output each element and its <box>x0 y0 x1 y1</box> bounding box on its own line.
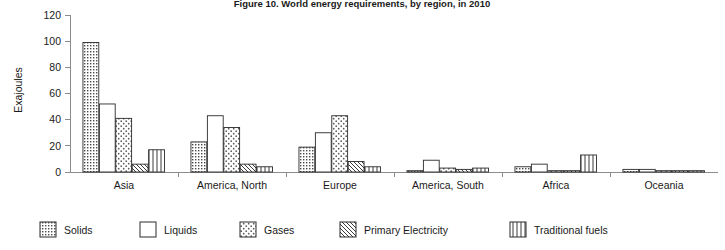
legend-swatch-solids <box>40 222 56 237</box>
y-axis-title: Exajoules <box>12 67 24 113</box>
bar-gases-africa <box>548 171 564 172</box>
bar-liquids-europe <box>315 133 331 172</box>
bar-primary-electricity-asia <box>132 164 148 172</box>
bar-traditional-fuels-oceania <box>689 171 705 172</box>
bars-layer <box>83 42 704 172</box>
y-axis-title-group: Exajoules <box>12 67 24 113</box>
bar-traditional-fuels-america-south <box>473 168 489 172</box>
bar-solids-america-north <box>191 142 207 172</box>
bar-gases-america-south <box>440 168 456 172</box>
x-axis-category-labels: AsiaAmerica, NorthEuropeAmerica, SouthAf… <box>114 179 684 191</box>
x-category-label: Europe <box>323 179 357 191</box>
legend-label-gases: Gases <box>264 224 294 236</box>
x-category-label: Asia <box>114 179 135 191</box>
bar-liquids-asia <box>99 104 115 172</box>
legend-swatch-primary-electricity <box>340 222 356 237</box>
bar-traditional-fuels-europe <box>365 167 381 172</box>
legend-swatch-gases <box>240 222 256 237</box>
bar-liquids-america-north <box>207 116 223 172</box>
bar-gases-america-north <box>224 128 240 172</box>
chart-title-group: Figure 10. World energy requirements, by… <box>234 0 490 9</box>
bar-solids-europe <box>299 147 315 172</box>
bar-gases-oceania <box>656 171 672 172</box>
bar-liquids-africa <box>531 164 547 172</box>
chart-container: Figure 10. World energy requirements, by… <box>0 0 725 250</box>
legend-swatch-liquids <box>140 222 156 237</box>
y-tick-label: 20 <box>49 140 61 152</box>
bar-solids-oceania <box>623 169 639 172</box>
y-tick-label: 100 <box>43 35 61 47</box>
x-category-label: America, South <box>412 179 484 191</box>
x-category-label: Oceania <box>644 179 683 191</box>
chart-title: Figure 10. World energy requirements, by… <box>234 0 490 9</box>
legend-label-primary-electricity: Primary Electricity <box>364 224 449 236</box>
bar-liquids-oceania <box>639 169 655 172</box>
legend-swatch-traditional-fuels <box>510 222 526 237</box>
bar-primary-electricity-europe <box>348 162 364 172</box>
chart-legend: SolidsLiquidsGasesPrimary ElectricityTra… <box>40 222 608 237</box>
bar-traditional-fuels-america-north <box>257 167 273 172</box>
bar-primary-electricity-america-north <box>240 164 256 172</box>
bar-liquids-america-south <box>423 160 439 172</box>
x-category-label: America, North <box>197 179 267 191</box>
y-tick-label: 80 <box>49 61 61 73</box>
legend-label-solids: Solids <box>64 224 93 236</box>
bar-chart-figure: Figure 10. World energy requirements, by… <box>0 0 725 250</box>
bar-solids-africa <box>515 167 531 172</box>
bar-primary-electricity-africa <box>564 171 580 172</box>
legend-label-liquids: Liquids <box>164 224 197 236</box>
y-tick-label: 60 <box>49 87 61 99</box>
y-tick-label: 120 <box>43 9 61 21</box>
y-tick-label: 0 <box>55 166 61 178</box>
bar-solids-asia <box>83 42 99 172</box>
group-separators <box>178 172 610 177</box>
y-tick-label: 40 <box>49 113 61 125</box>
x-category-label: Africa <box>543 179 570 191</box>
bar-primary-electricity-america-south <box>456 169 472 172</box>
bar-gases-europe <box>332 116 348 172</box>
bar-traditional-fuels-africa <box>581 155 597 172</box>
bar-primary-electricity-oceania <box>672 171 688 172</box>
bar-gases-asia <box>116 118 132 172</box>
y-axis-ticks: 020406080100120 <box>43 9 70 178</box>
chart-axes <box>70 15 718 172</box>
legend-label-traditional-fuels: Traditional fuels <box>534 224 608 236</box>
bar-traditional-fuels-asia <box>149 150 165 172</box>
bar-solids-america-south <box>407 171 423 172</box>
